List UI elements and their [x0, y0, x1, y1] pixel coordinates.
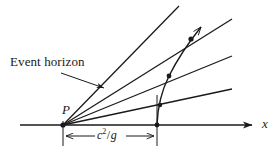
radial-line-4	[63, 89, 232, 125]
event-horizon-leader-arrow	[61, 73, 104, 88]
origin-point-label: P	[62, 103, 70, 116]
dimension-label: c2/g	[95, 129, 119, 141]
dimension-denominator: g	[111, 128, 117, 142]
event-horizon-label: Event horizon	[10, 55, 85, 68]
worldline-crossing-dot-2	[167, 74, 172, 79]
radial-line-2	[63, 19, 232, 125]
diagram-canvas	[0, 0, 275, 151]
spacetime-diagram-figure: Event horizon P x c2/g	[0, 0, 275, 151]
hyperbolic-worldline	[157, 27, 201, 125]
worldline-crossing-dot-1	[158, 103, 162, 107]
worldline-crossing-dot-3	[188, 36, 193, 41]
x-axis-label: x	[262, 117, 268, 130]
radial-line-3	[63, 56, 232, 125]
